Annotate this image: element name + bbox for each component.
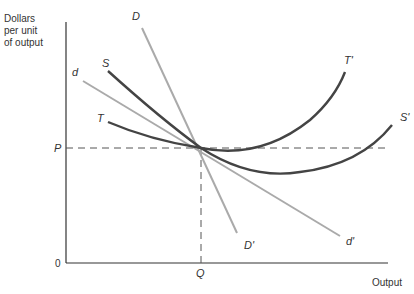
origin-label: 0 xyxy=(55,258,61,269)
label-D-prime: D' xyxy=(244,239,255,251)
y-axis-label-line-3: of output xyxy=(4,37,43,48)
label-d-prime: d' xyxy=(346,235,355,247)
y-axis-label-line-2: per unit xyxy=(4,25,38,36)
curve-D xyxy=(142,28,237,233)
curve-T xyxy=(108,72,345,151)
y-axis-label-line-1: Dollars xyxy=(4,13,35,24)
label-S-prime: S' xyxy=(400,111,410,123)
economics-diagram: Dollars per unit of output Output 0 P Q … xyxy=(0,0,414,294)
curve-d xyxy=(83,81,340,236)
quantity-label: Q xyxy=(196,267,205,279)
label-T: T xyxy=(97,112,105,124)
label-S: S xyxy=(102,57,110,69)
price-label: P xyxy=(54,142,62,154)
x-axis-label: Output xyxy=(372,277,402,288)
label-D: D xyxy=(132,10,140,22)
label-T-prime: T' xyxy=(344,54,354,66)
label-d: d xyxy=(72,66,79,78)
